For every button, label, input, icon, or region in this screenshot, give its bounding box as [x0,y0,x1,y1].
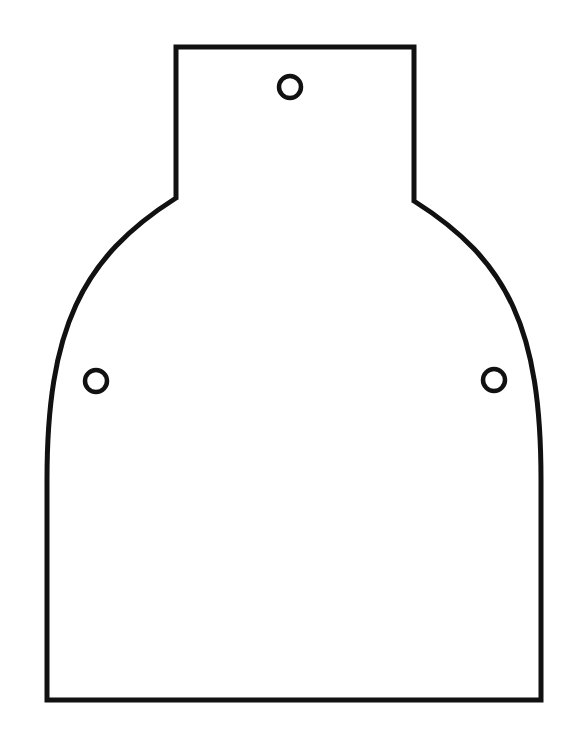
outline-diagram [0,0,575,750]
shape-outline [47,47,541,700]
diagram-canvas [0,0,575,750]
